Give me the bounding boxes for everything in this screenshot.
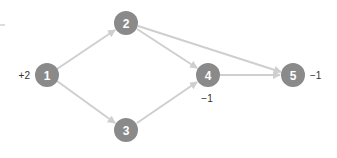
edge-1-3 bbox=[57, 81, 115, 123]
node-3-label: 3 bbox=[123, 124, 130, 138]
node-1-label: 1 bbox=[44, 69, 51, 83]
network-diagram: 1 +2 2 3 4 −1 5 −1 bbox=[0, 0, 337, 158]
edge-1-2 bbox=[57, 30, 115, 69]
node-4-supply: −1 bbox=[201, 93, 213, 104]
node-4: 4 −1 bbox=[196, 63, 220, 104]
node-5-supply: −1 bbox=[310, 70, 322, 81]
node-4-label: 4 bbox=[205, 69, 212, 83]
node-2-label: 2 bbox=[123, 17, 130, 31]
edge-3-4 bbox=[137, 82, 197, 123]
node-1-supply: +2 bbox=[19, 70, 31, 81]
node-5-label: 5 bbox=[290, 69, 297, 83]
node-2: 2 bbox=[114, 11, 138, 35]
node-1: 1 +2 bbox=[19, 63, 59, 87]
node-3: 3 bbox=[114, 118, 138, 142]
node-5: 5 −1 bbox=[281, 63, 322, 87]
